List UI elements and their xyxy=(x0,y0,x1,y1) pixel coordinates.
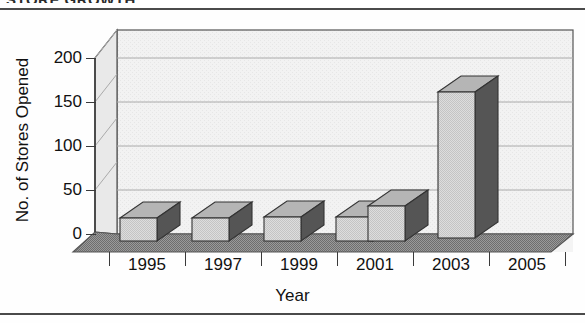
x-axis-title: Year xyxy=(0,286,585,306)
y-tick-mark-50 xyxy=(86,190,96,191)
y-tick-label-100: 100 xyxy=(10,136,82,156)
x-tick-mark-2003 xyxy=(413,252,414,266)
x-tick-label-1997: 1997 xyxy=(188,255,258,275)
y-tick-mark-150 xyxy=(86,102,96,103)
x-tick-mark-2001 xyxy=(337,252,338,266)
x-tick-mark-2005 xyxy=(489,252,490,266)
y-tick-label-50: 50 xyxy=(10,180,82,200)
chart-figure: STORE GROWTH xyxy=(0,0,585,323)
y-tick-mark-200 xyxy=(86,58,96,59)
x-tick-mark-1997 xyxy=(185,252,186,266)
x-tick-mark-end xyxy=(565,252,566,266)
y-tick-mark-100 xyxy=(86,146,96,147)
back-wall xyxy=(117,30,573,234)
x-tick-label-2005: 2005 xyxy=(492,255,562,275)
x-tick-label-2003: 2003 xyxy=(416,255,486,275)
x-tick-mark-1995 xyxy=(109,252,110,266)
x-tick-mark-1999 xyxy=(261,252,262,266)
bar-2005 xyxy=(438,76,498,238)
y-tick-mark-0 xyxy=(86,234,96,235)
x-tick-label-2001: 2001 xyxy=(340,255,410,275)
y-tick-label-0: 0 xyxy=(10,224,82,244)
x-tick-label-1999: 1999 xyxy=(264,255,334,275)
x-tick-label-1995: 1995 xyxy=(112,255,182,275)
y-tick-label-200: 200 xyxy=(10,48,82,68)
y-tick-label-150: 150 xyxy=(10,92,82,112)
